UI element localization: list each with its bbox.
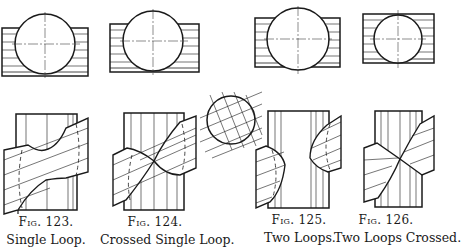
cross-section-circle: [200, 92, 262, 158]
fig-124-elevation-view: [113, 113, 196, 210]
fig-126-plan-view: [363, 10, 434, 68]
fig-126-elevation-view: [364, 111, 434, 207]
fig-125-number: Fig. 125.: [264, 212, 334, 229]
fig-126-title: Two Loops Crossed.: [334, 229, 438, 246]
fig-123-caption: Fig. 123. Single Loop.: [6, 214, 86, 248]
fig-126-number: Fig. 126.: [334, 212, 438, 229]
fig-123-number: Fig. 123.: [6, 214, 86, 231]
fig-123-title: Single Loop.: [6, 231, 86, 248]
fig-125-elevation-view: [256, 111, 341, 208]
fig-126-caption: Fig. 126. Two Loops Crossed.: [334, 212, 438, 246]
fig-125-caption: Fig. 125. Two Loops.: [264, 212, 334, 246]
fig-124-number: Fig. 124.: [100, 214, 210, 231]
fig-123-plan-view: [2, 12, 88, 78]
fig-125-title: Two Loops.: [264, 229, 334, 246]
fig-124-title: Crossed Single Loop.: [100, 231, 210, 248]
fig-124-caption: Fig. 124. Crossed Single Loop.: [100, 214, 210, 248]
fig-124-plan-view: [110, 9, 199, 75]
fig-123-elevation-view: [4, 114, 88, 214]
fig-125-plan-view: [255, 6, 340, 74]
